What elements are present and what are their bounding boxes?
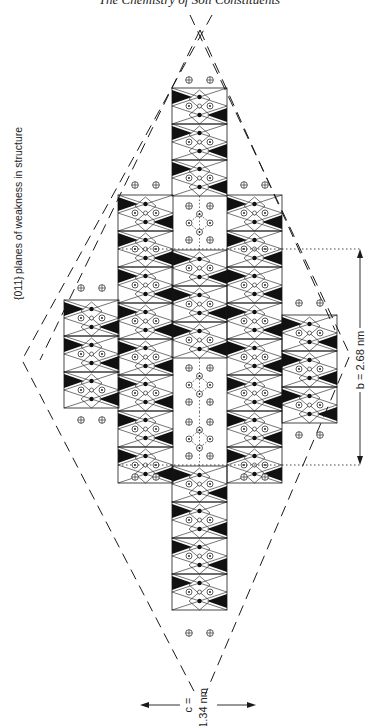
palygorskite-structure-diagram: b = 2.68 nm c = 1.34 nm {011} planes of …: [0, 0, 379, 726]
planes-label: {011} planes of weakness in structure: [12, 127, 24, 300]
ribbon-column-far-left: [64, 285, 119, 424]
ribbon-column-far-right: [282, 300, 337, 439]
c-dimension-label-bottom: 1.34 nm: [197, 688, 209, 726]
ribbon-column-left: [118, 182, 173, 483]
ribbon-column-right: [227, 182, 282, 483]
planes-label-hkl: {011}: [12, 276, 24, 300]
c-dimension-label-top: c =: [182, 698, 194, 713]
planes-label-text: planes of weakness in structure: [12, 127, 24, 274]
b-dimension-label: b = 2.68 nm: [354, 331, 366, 389]
ribbon-column-center: [172, 77, 227, 637]
